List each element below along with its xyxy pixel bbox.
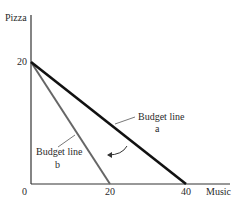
y-tick-20: 20 — [17, 56, 27, 67]
budget-line-diagram: Pizza Music 0 20 20 40 Budget line a Bud… — [0, 0, 241, 212]
origin-label: 0 — [22, 186, 27, 197]
budget-line-b-letter: b — [55, 159, 60, 170]
x-tick-20: 20 — [105, 186, 115, 197]
budget-line-a-letter: a — [155, 123, 159, 134]
leader-line-a — [115, 117, 135, 124]
pivot-arrow-icon — [108, 146, 127, 155]
diagram-svg — [0, 0, 241, 212]
x-axis-label: Music — [206, 186, 231, 197]
y-axis-label: Pizza — [5, 12, 27, 23]
x-tick-40: 40 — [181, 186, 191, 197]
budget-line-b-label: Budget line — [36, 146, 82, 157]
budget-line-b — [31, 62, 110, 184]
budget-line-a-label: Budget line — [138, 111, 184, 122]
